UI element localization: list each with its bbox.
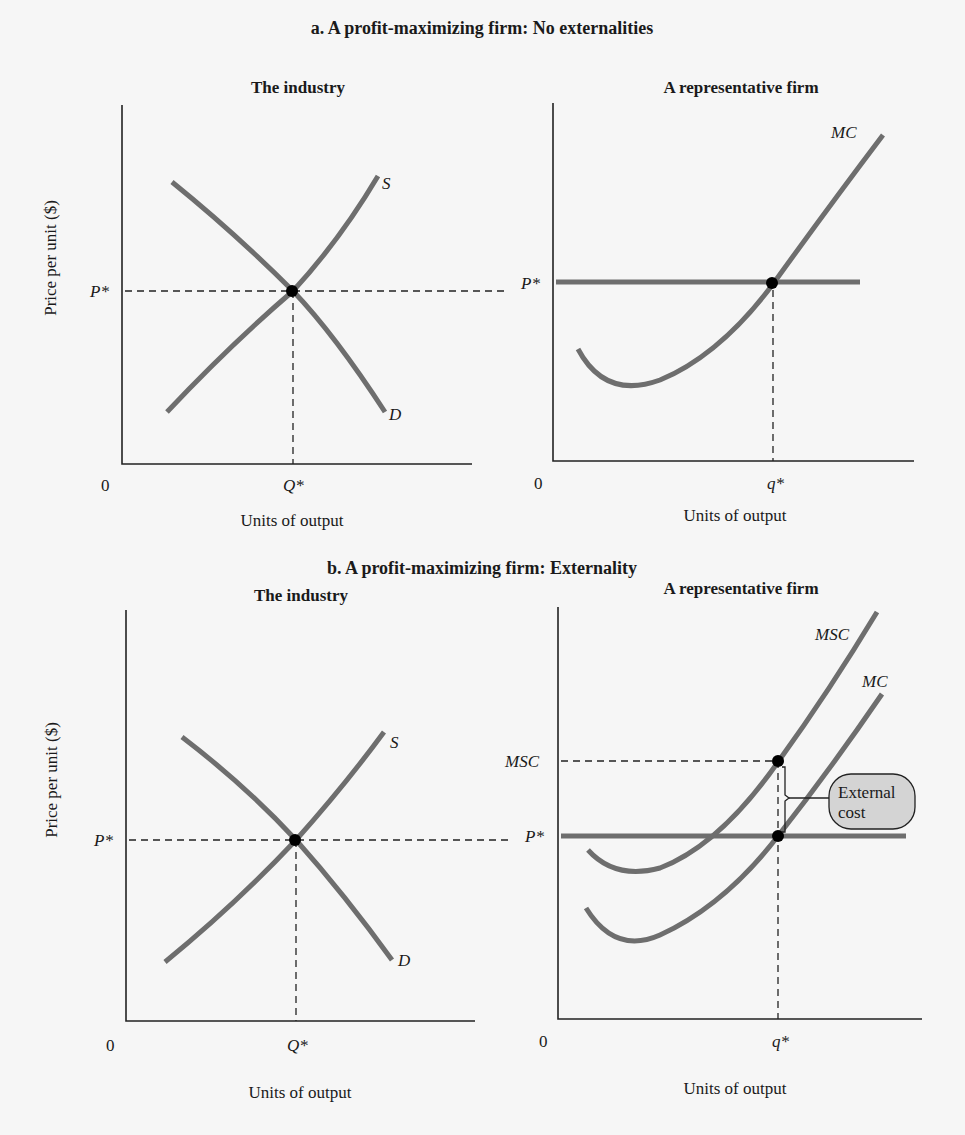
panel-a-industry-qty-label: Q* bbox=[283, 476, 304, 495]
panel-a-industry-xlabel: Units of output bbox=[241, 511, 344, 530]
panel-a-firm-subtitle: A representative firm bbox=[663, 78, 818, 97]
panel-b-firm-qty-label: q* bbox=[772, 1032, 790, 1051]
panel-a-firm-chart: A representative firm MC P* q* 0 Units o… bbox=[520, 78, 914, 525]
panel-a-supply-curve bbox=[167, 176, 378, 412]
panel-a-industry-subtitle: The industry bbox=[251, 78, 345, 97]
panel-b-industry-qty-label: Q* bbox=[287, 1036, 308, 1055]
panel-a-firm-price-label: P* bbox=[520, 274, 540, 293]
panel-b-demand-label: D bbox=[397, 951, 411, 970]
panel-a-industry-chart: The industry Price per unit ($) S D P* Q… bbox=[41, 78, 508, 530]
panel-a-industry-ylabel: Price per unit ($) bbox=[41, 200, 60, 316]
panel-a-industry-price-label: P* bbox=[89, 282, 109, 301]
panel-b-mc-label: MC bbox=[861, 672, 888, 691]
panel-b-msc-dot bbox=[772, 755, 784, 767]
panel-a-mc-curve bbox=[578, 135, 883, 386]
panel-b-industry-price-label: P* bbox=[93, 831, 113, 850]
panel-b-supply-curve bbox=[165, 732, 384, 962]
panel-b-industry-xlabel: Units of output bbox=[249, 1083, 352, 1102]
panel-b-industry-chart: The industry Price per unit ($) S D P* Q… bbox=[42, 586, 512, 1102]
panel-a-demand-label: D bbox=[388, 405, 402, 424]
panel-b-firm-origin: 0 bbox=[539, 1032, 548, 1051]
panel-a-supply-label: S bbox=[382, 174, 391, 193]
panel-a-firm-origin: 0 bbox=[534, 474, 543, 493]
panel-b-callout-line2: cost bbox=[838, 803, 866, 822]
panel-a-firm-equilibrium-dot bbox=[766, 277, 778, 289]
panel-b-firm-subtitle: A representative firm bbox=[663, 579, 818, 598]
panel-b-firm-xlabel: Units of output bbox=[684, 1079, 787, 1098]
panel-b-supply-label: S bbox=[390, 733, 399, 752]
panel-b-title: b. A profit-maximizing firm: Externality bbox=[327, 558, 637, 578]
panel-a-industry-origin: 0 bbox=[101, 476, 110, 495]
panel-b-industry-ylabel: Price per unit ($) bbox=[42, 722, 61, 838]
externality-figure: a. A profit-maximizing firm: No external… bbox=[0, 0, 965, 1135]
panel-b-firm-chart: A representative firm External cost MSC … bbox=[504, 579, 922, 1098]
panel-b-firm-msc-price-label: MSC bbox=[504, 752, 540, 771]
panel-b-callout-line1: External bbox=[838, 783, 896, 802]
panel-b-industry-subtitle: The industry bbox=[254, 586, 348, 605]
panel-b-industry-axes bbox=[126, 610, 475, 1021]
panel-a-industry-equilibrium-dot bbox=[286, 285, 298, 297]
panel-b-msc-curve bbox=[588, 612, 877, 871]
panel-a-firm-qty-label: q* bbox=[767, 474, 785, 493]
panel-b-msc-label: MSC bbox=[814, 625, 850, 644]
panel-a-firm-xlabel: Units of output bbox=[684, 506, 787, 525]
panel-b-firm-price-label: P* bbox=[524, 827, 544, 846]
panel-a-title: a. A profit-maximizing firm: No external… bbox=[311, 18, 654, 38]
panel-b-industry-equilibrium-dot bbox=[289, 834, 301, 846]
panel-b-industry-origin: 0 bbox=[106, 1036, 115, 1055]
panel-a-mc-label: MC bbox=[830, 123, 857, 142]
